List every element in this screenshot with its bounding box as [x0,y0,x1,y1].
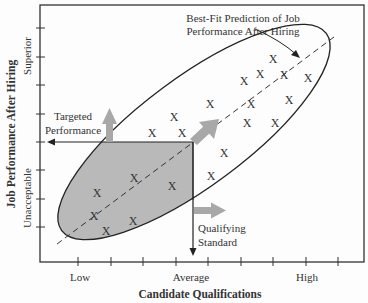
data-point: X [90,209,99,223]
data-point: X [207,169,216,183]
data-point: X [256,67,265,81]
y-tick-unacceptable: Unacceptable [21,168,33,228]
data-point: X [93,186,102,200]
x-tick-high: High [296,271,319,283]
job-performance-diagram: X X X X X X X X X X X X X X X X X X X X … [0,0,368,303]
data-point: X [240,74,249,88]
data-point: X [285,93,294,107]
data-point: X [170,110,179,124]
data-point: X [243,116,252,130]
targeted-label-line2: Performance [45,124,101,136]
x-tick-average: Average [173,271,210,283]
data-point: X [304,71,313,85]
arrow-right-icon [194,203,226,219]
best-fit-label-line1: Best-Fit Prediction of Job [186,12,300,24]
x-axis-title: Candidate Qualifications [138,288,262,300]
data-point: X [168,179,177,193]
arrow-down-icon [190,248,197,256]
arrow-up-icon [102,108,117,142]
x-tick-low: Low [70,271,90,283]
data-point: X [220,146,229,160]
data-point: X [269,52,278,66]
data-point: X [247,97,256,111]
y-tick-superior: Superior [21,37,33,75]
data-point: X [178,126,187,140]
arrow-left-icon [47,139,55,146]
targeted-label-line1: Targeted [54,110,93,122]
data-point: X [206,97,215,111]
qualifying-label-line1: Qualifying [198,222,246,234]
arrow-diagonal-icon [190,119,219,145]
data-point: X [148,126,157,140]
data-point: X [129,214,138,228]
y-axis-title: Job Performance After Hiring [5,60,18,209]
data-point: X [102,224,111,238]
best-fit-label-line2: Performance After Hiring [186,25,300,37]
data-point: X [271,116,280,130]
data-point: X [280,68,289,82]
qualifying-label-line2: Standard [198,236,238,248]
data-point: X [130,171,139,185]
